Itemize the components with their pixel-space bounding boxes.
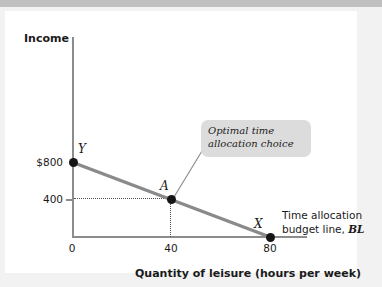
data-point-y [69, 158, 78, 167]
data-point-label-y: Y [78, 142, 86, 156]
data-point-x [266, 233, 275, 242]
budget-line-annotation-symbol: BL [348, 223, 364, 235]
page-top-band [0, 0, 382, 7]
data-point-label-x: X [254, 217, 263, 231]
figure-root: Income Quantity of leisure (hours per we… [0, 0, 382, 287]
optimal-choice-callout: Optimal time allocation choice [201, 120, 311, 157]
data-point-label-a: A [160, 179, 169, 193]
data-point-a [167, 195, 176, 204]
figure-panel: Income Quantity of leisure (hours per we… [5, 11, 357, 273]
budget-line-annotation: Time allocation budget line, BL [282, 209, 366, 236]
